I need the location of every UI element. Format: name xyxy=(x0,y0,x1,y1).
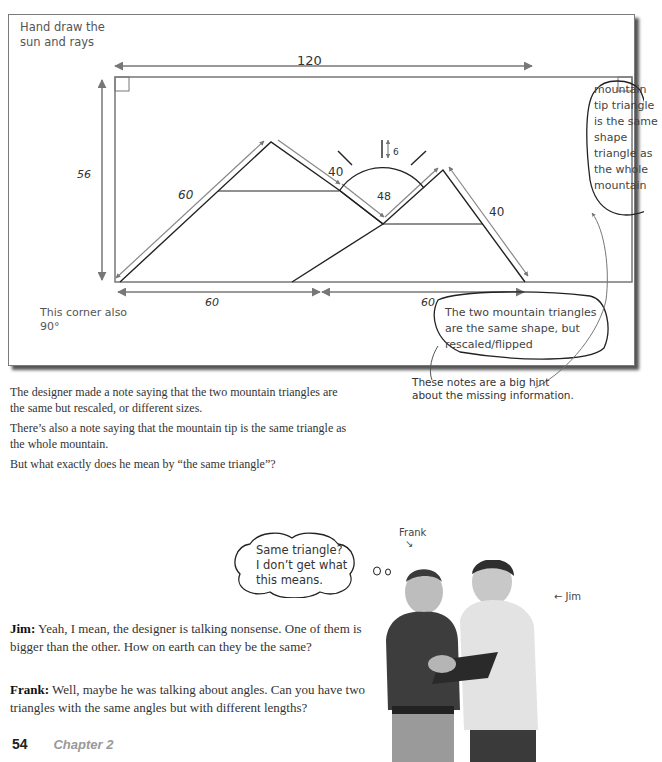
photo-frank-and-jim xyxy=(380,560,580,762)
note-sun-rays: Hand draw the sun and rays xyxy=(20,20,105,50)
svg-text:56: 56 xyxy=(77,168,91,181)
paragraph-3: But what exactly does he mean by “the sa… xyxy=(10,456,350,472)
label-frank: Frank↘ xyxy=(399,527,426,549)
note-corner-90: This corner also 90° xyxy=(40,306,127,334)
svg-text:120: 120 xyxy=(297,53,322,68)
dialogue-frank: Frank: Well, maybe he was talking about … xyxy=(10,681,390,717)
note-mountain-tip: mountain tip triangle is the same shape … xyxy=(594,82,662,194)
chapter-label: Chapter 2 xyxy=(53,737,113,752)
page-footer: 54 Chapter 2 xyxy=(12,736,113,752)
svg-text:6: 6 xyxy=(393,147,399,157)
arrow-down-icon: ↘ xyxy=(405,538,413,549)
svg-text:60: 60 xyxy=(205,296,219,309)
hint-annotation: These notes are a big hint about the mis… xyxy=(412,376,574,402)
svg-text:60: 60 xyxy=(421,296,435,309)
thought-text: Same triangle? I don’t get what this mea… xyxy=(256,543,347,588)
dialogue-jim: Jim: Yeah, I mean, the designer is talki… xyxy=(10,620,390,656)
svg-text:40: 40 xyxy=(489,205,504,219)
paragraph-1: The designer made a note saying that the… xyxy=(10,384,350,416)
paragraph-2: There’s also a note saying that the moun… xyxy=(10,420,350,452)
svg-text:40: 40 xyxy=(328,165,343,179)
svg-text:48: 48 xyxy=(377,190,391,203)
note-two-triangles: The two mountain triangles are the same … xyxy=(445,305,610,353)
svg-text:60: 60 xyxy=(178,188,194,202)
page-number: 54 xyxy=(12,736,28,752)
